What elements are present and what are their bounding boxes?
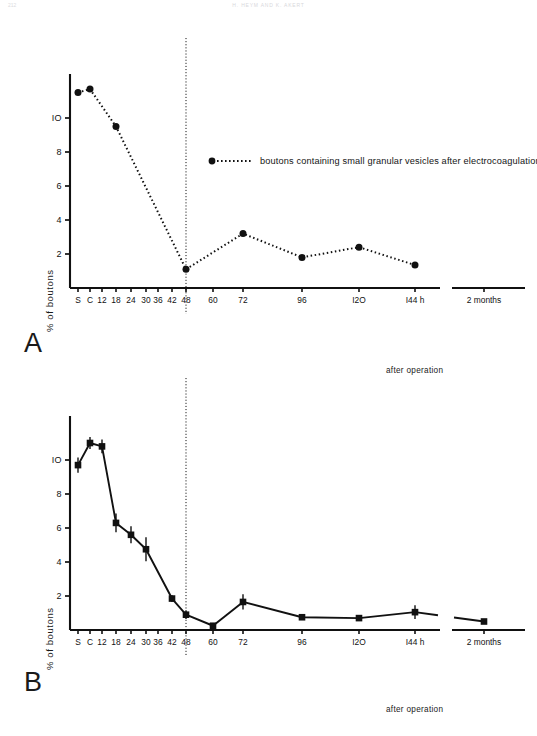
y-tick-label: IO <box>52 455 62 465</box>
x-tick-label: 30 <box>141 637 151 647</box>
x-tick-label: I44 h <box>406 295 425 305</box>
data-point-marker <box>240 599 247 606</box>
x-tick-label: S <box>75 637 81 647</box>
data-line <box>454 617 484 621</box>
data-point-marker <box>75 89 82 96</box>
x-tick-label: I2O <box>352 637 366 647</box>
x-tick-label: 36 <box>153 637 163 647</box>
x-tick-label: 2 months <box>467 637 501 647</box>
data-point-marker <box>412 609 419 616</box>
x-tick-label: 60 <box>208 295 218 305</box>
data-point-marker <box>75 462 82 469</box>
x-axis-caption-a: after operation <box>386 366 443 375</box>
x-tick-label: 30 <box>141 295 151 305</box>
data-point-marker <box>169 595 176 602</box>
x-tick-label: 12 <box>97 637 107 647</box>
data-point-marker <box>412 262 419 269</box>
y-tick-label: 4 <box>57 557 62 567</box>
plot-svg-b: 2468IOSC12182430364248607296I2OI44 h2 mo… <box>0 378 537 708</box>
x-tick-label: 42 <box>167 295 177 305</box>
y-tick-label: 2 <box>57 249 62 259</box>
data-point-marker <box>481 618 488 625</box>
x-tick-label: I2O <box>352 295 366 305</box>
x-tick-label: 24 <box>126 295 136 305</box>
data-point-marker <box>299 614 306 621</box>
x-tick-label: 36 <box>153 295 163 305</box>
data-point-marker <box>210 622 217 629</box>
y-tick-label: 6 <box>57 523 62 533</box>
data-point-marker <box>240 230 247 237</box>
x-tick-label: 42 <box>167 637 177 647</box>
plot-svg-a: 2468IOSC12182430364248607296I2OI44 h2 mo… <box>0 36 537 366</box>
x-tick-label: C <box>87 637 93 647</box>
y-tick-label: 2 <box>57 591 62 601</box>
x-tick-label: I44 h <box>406 637 425 647</box>
chart-panel-a: 2468IOSC12182430364248607296I2OI44 h2 mo… <box>0 36 537 366</box>
legend-label-a: boutons containing small granular vesicl… <box>260 156 537 166</box>
data-point-marker <box>183 266 190 273</box>
x-tick-label: 24 <box>126 637 136 647</box>
data-point-marker <box>299 254 306 261</box>
data-point-marker <box>183 611 190 618</box>
y-axis-label-a: % of boutons <box>44 269 55 332</box>
data-point-marker <box>99 443 106 450</box>
plot-area-b: 2468IOSC12182430364248607296I2OI44 h2 mo… <box>0 378 537 708</box>
data-point-marker <box>356 615 363 622</box>
x-tick-label: 18 <box>111 637 121 647</box>
x-tick-label: 18 <box>111 295 121 305</box>
y-tick-label: 6 <box>57 181 62 191</box>
x-tick-label: S <box>75 295 81 305</box>
plot-area-a: 2468IOSC12182430364248607296I2OI44 h2 mo… <box>0 36 537 366</box>
chart-panel-b: 2468IOSC12182430364248607296I2OI44 h2 mo… <box>0 378 537 708</box>
running-head: H. HEYM AND K. AKERT <box>0 2 537 8</box>
figure-page: 212 H. HEYM AND K. AKERT 2468IOSC1218243… <box>0 0 537 736</box>
data-point-marker <box>143 546 150 553</box>
y-tick-label: 8 <box>57 147 62 157</box>
y-tick-label: 8 <box>57 489 62 499</box>
x-tick-label: 72 <box>238 637 248 647</box>
x-tick-label: 12 <box>97 295 107 305</box>
x-tick-label: 96 <box>297 637 307 647</box>
data-line <box>78 89 415 269</box>
y-axis-label-b: % of boutons <box>44 607 55 670</box>
legend-marker-circle-dotted-icon <box>207 156 253 166</box>
x-tick-label: 96 <box>297 295 307 305</box>
x-tick-label: 72 <box>238 295 248 305</box>
data-point-marker <box>356 244 363 251</box>
panel-letter-b: B <box>24 667 42 698</box>
data-point-marker <box>113 123 120 130</box>
data-point-marker <box>87 440 94 447</box>
y-tick-label: IO <box>52 113 62 123</box>
data-point-marker <box>87 86 94 93</box>
x-tick-label: 60 <box>208 637 218 647</box>
data-point-marker <box>128 532 135 539</box>
data-line <box>415 612 438 615</box>
panel-letter-a: A <box>24 328 42 359</box>
data-point-marker <box>113 520 120 527</box>
legend-a: boutons containing small granular vesicl… <box>207 156 537 166</box>
x-tick-label: 2 months <box>467 295 501 305</box>
x-axis-caption-b: after operation <box>386 705 443 714</box>
x-tick-label: C <box>87 295 93 305</box>
y-tick-label: 4 <box>57 215 62 225</box>
